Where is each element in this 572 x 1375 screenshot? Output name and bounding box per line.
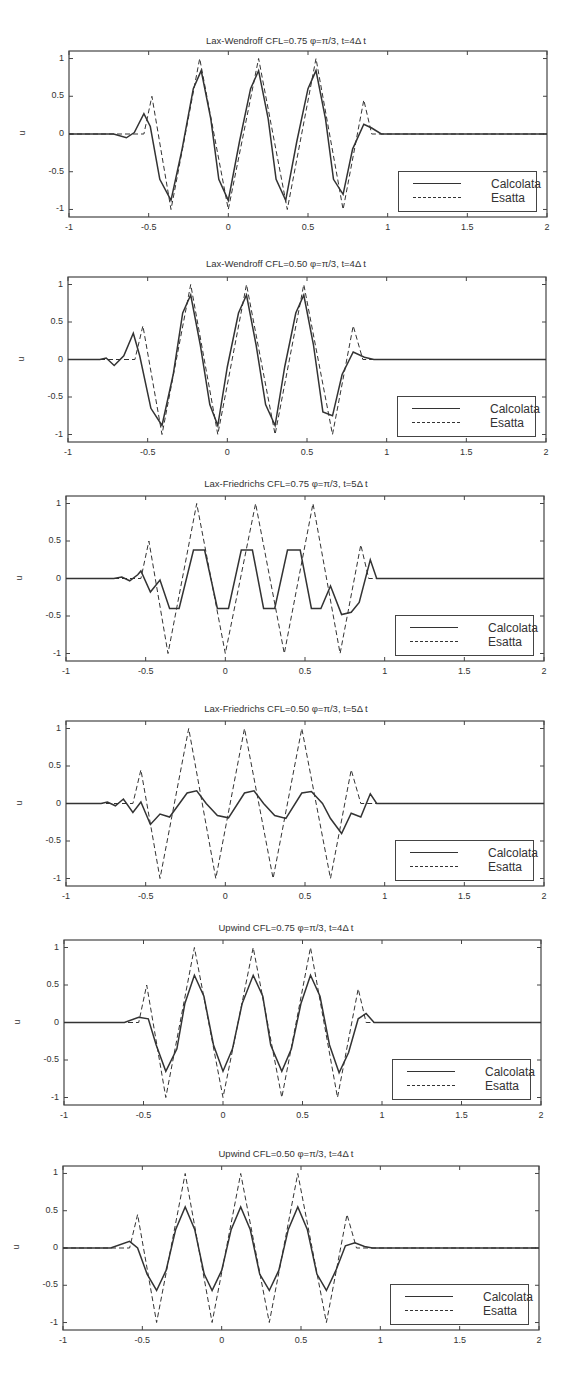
solid-line-swatch bbox=[405, 1296, 453, 1297]
legend: CalcolataEsatta bbox=[390, 1284, 529, 1325]
legend-item: Calcolata bbox=[391, 1290, 528, 1304]
legend-label: Esatta bbox=[483, 1304, 517, 1318]
dashed-line-swatch bbox=[405, 1310, 453, 1311]
plot-area bbox=[0, 0, 572, 1375]
legend-label: Calcolata bbox=[483, 1290, 533, 1304]
series-calcolata bbox=[63, 1207, 539, 1291]
legend-item: Esatta bbox=[391, 1304, 528, 1318]
chart-panel-6: Upwind CFL=0.50 φ=π/3, t=4Δ tu10.50-0.5-… bbox=[0, 0, 572, 225]
